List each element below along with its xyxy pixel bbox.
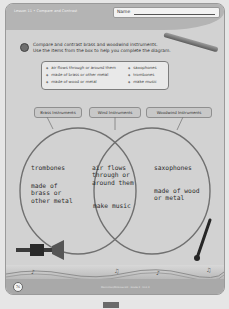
svg-text:♫: ♫ [206, 266, 211, 273]
venn-left-item: trombones [31, 164, 65, 171]
worksheet-page: Lesson 11 • Compare and Contrast Name Co… [5, 3, 225, 295]
clarinet-icon [192, 218, 214, 262]
svg-text:♪: ♪ [31, 268, 35, 275]
svg-text:♪: ♪ [156, 269, 160, 276]
page-number: 76 [13, 282, 23, 292]
venn-middle-item: make music [93, 202, 131, 209]
publisher-logo [103, 302, 119, 308]
venn-right-item: made of wood or metal [154, 187, 200, 202]
svg-text:♫: ♫ [114, 267, 119, 274]
venn-middle-item: air flows through or around them [92, 164, 134, 186]
trumpet-icon [14, 240, 69, 260]
footer-note: Macmillan/McGraw-Hill · Grade 3 · Unit 3 [101, 286, 150, 289]
venn-right-item: saxophones [154, 164, 192, 171]
music-notes-decoration: ♪ ♫ ♪ ♫ [6, 265, 224, 279]
venn-left-item: made of brass or other metal [31, 182, 73, 204]
